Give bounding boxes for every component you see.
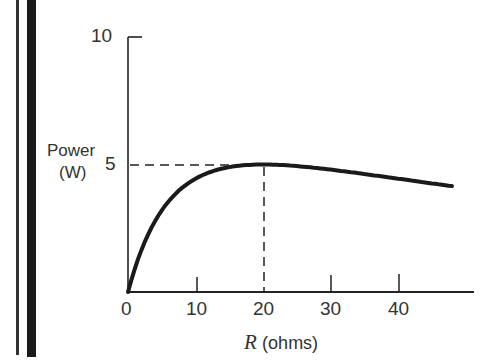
y-axis-label-line1: Power xyxy=(47,141,95,161)
x-tick-label-20: 20 xyxy=(253,298,274,320)
y-axis-label-line2: (W) xyxy=(59,163,86,183)
x-axis-variable: R xyxy=(244,330,257,354)
x-tick-label-10: 10 xyxy=(186,298,207,320)
y-tick-label-5: 5 xyxy=(105,153,116,175)
x-tick-label-30: 30 xyxy=(320,298,341,320)
x-ticks xyxy=(197,274,399,292)
x-tick-label-0: 0 xyxy=(121,298,132,320)
x-axis-label: R (ohms) xyxy=(244,330,318,355)
y-tick-label-10: 10 xyxy=(91,25,112,47)
x-axis-unit: (ohms) xyxy=(262,333,318,353)
x-tick-label-40: 40 xyxy=(388,298,409,320)
power-curve xyxy=(128,165,452,293)
